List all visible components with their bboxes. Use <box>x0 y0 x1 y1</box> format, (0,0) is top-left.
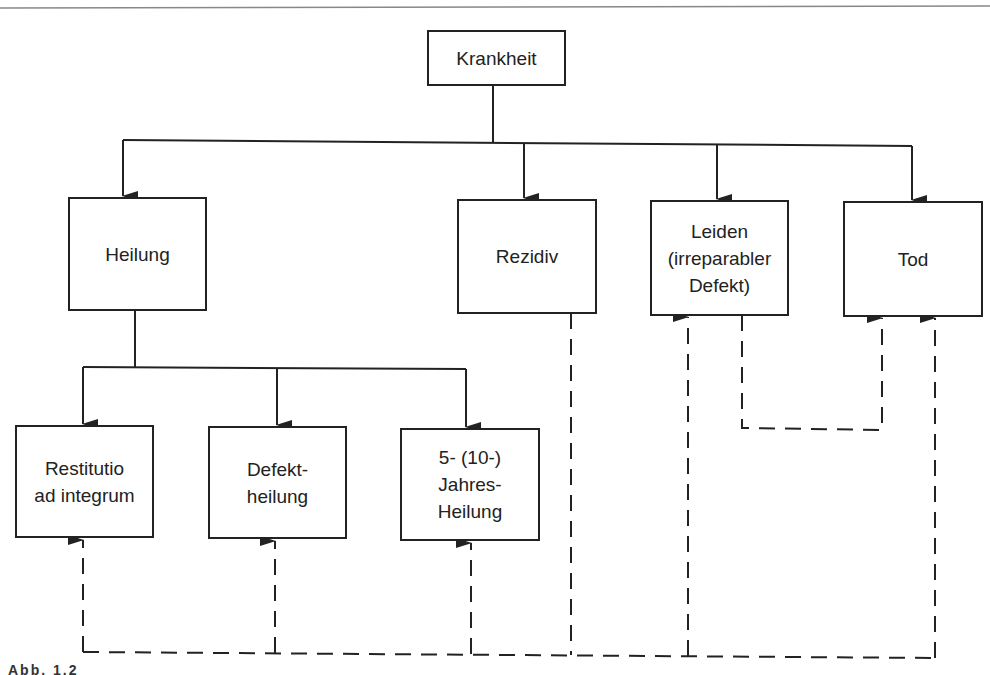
top-rule <box>0 6 990 8</box>
node-defektheilung: Defekt- heilung <box>208 426 347 539</box>
node-tod: Tod <box>843 201 983 317</box>
node-jahresheilung-line-2: Jahres- <box>438 471 501 498</box>
dashed-leiden-to-tod <box>742 315 882 430</box>
node-jahresheilung: 5- (10-) Jahres- Heilung <box>400 428 540 541</box>
node-leiden: Leiden (irreparabler Defekt) <box>650 200 789 316</box>
node-leiden-line-3: Defekt) <box>689 272 750 299</box>
node-jahresheilung-line-3: Heilung <box>438 498 502 525</box>
node-heilung-label: Heilung <box>105 241 169 268</box>
node-leiden-line-1: Leiden <box>691 218 748 245</box>
node-defektheilung-line-1: Defekt- <box>247 456 308 483</box>
dashed-bottom-bus <box>83 652 935 658</box>
node-restitutio-line-2: ad integrum <box>34 482 134 509</box>
node-krankheit: Krankheit <box>427 30 566 86</box>
node-leiden-line-2: (irreparabler <box>668 245 771 272</box>
node-defektheilung-line-2: heilung <box>247 483 308 510</box>
node-rezidiv: Rezidiv <box>457 199 597 314</box>
node-heilung: Heilung <box>68 197 207 311</box>
node-krankheit-label: Krankheit <box>456 45 536 72</box>
node-restitutio: Restitutio ad integrum <box>15 425 154 538</box>
node-rezidiv-label: Rezidiv <box>496 243 558 270</box>
figure-caption: Abb. 1.2 <box>8 662 78 675</box>
diagram-connectors <box>0 0 990 675</box>
heilung-bus <box>83 367 466 369</box>
node-restitutio-line-1: Restitutio <box>45 455 124 482</box>
node-tod-label: Tod <box>898 246 929 273</box>
root-bus <box>123 140 912 146</box>
node-jahresheilung-line-1: 5- (10-) <box>439 444 501 471</box>
